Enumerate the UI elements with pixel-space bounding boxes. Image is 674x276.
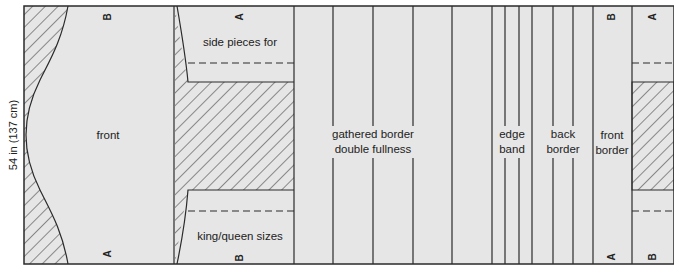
- front-border-bottom-mark: A: [606, 253, 617, 260]
- front-top-mark: B: [102, 13, 113, 20]
- back-border-label-1: back: [551, 128, 576, 140]
- front-bottom-mark: A: [102, 250, 113, 257]
- front-border-label-2: border: [595, 144, 628, 156]
- front-label: front: [96, 129, 120, 141]
- edge-band-label-2: band: [499, 143, 525, 155]
- end-top-mark: A: [647, 13, 658, 20]
- end-waste-hatch: [632, 82, 674, 190]
- front-border-top-mark: B: [606, 13, 617, 20]
- back-border-label-2: border: [546, 143, 579, 155]
- edge-band-label-1: edge: [499, 128, 525, 140]
- front-border-label-1: front: [600, 129, 624, 141]
- side-pieces-label-top: side pieces for: [203, 36, 277, 48]
- fabric-layout-diagram: 54 in (137 cm) front B A side pieces for…: [0, 0, 674, 276]
- side-bottom-mark: B: [234, 254, 245, 261]
- side-piece-lower: [177, 190, 294, 264]
- side-top-mark: A: [234, 13, 245, 20]
- gathered-border-label-2: double fullness: [335, 143, 412, 155]
- end-bottom-mark: B: [647, 253, 658, 260]
- side-pieces-label-bottom: king/queen sizes: [197, 230, 283, 242]
- fabric-width-label: 54 in (137 cm): [7, 100, 19, 170]
- gathered-border-label-1: gathered border: [332, 128, 414, 140]
